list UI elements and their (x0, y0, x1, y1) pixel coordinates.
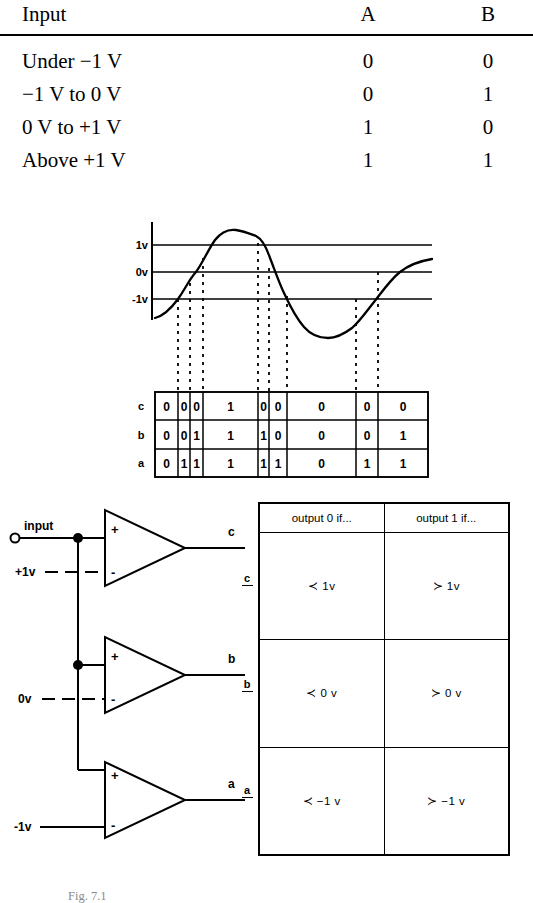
column-header-output-0: output 0 if... (260, 504, 385, 533)
bit-cell: 1 (260, 429, 267, 443)
bit-cell: 1 (227, 429, 234, 443)
bit-cell: 0 (163, 457, 170, 471)
condition-row-marker-b-rule (242, 691, 253, 692)
comparator-a: + - a -1v (14, 755, 245, 838)
cell-input: Under −1 V (0, 35, 293, 77)
table-row: 0 V to +1 V 1 0 (0, 110, 533, 143)
bit-cell: 1 (260, 457, 267, 471)
comparator-a-plus-sign: + (111, 768, 119, 783)
comparator-b: + - b 0v (18, 637, 245, 713)
cell-b: 0 (443, 35, 533, 77)
comparator-a-minus-sign: - (111, 818, 115, 833)
table-row: Above +1 V 1 1 (0, 143, 533, 176)
bit-cell: 1 (193, 457, 200, 471)
condition-table-grid: output 0 if... output 1 if... ≺ 1v ≻ 1v … (259, 503, 509, 855)
bit-cell: 1 (400, 429, 407, 443)
comparator-b-plus-sign: + (111, 649, 119, 664)
condition-a-zero: ≺ −1 v (260, 747, 385, 854)
figure-caption: Fig. 7.1 (68, 889, 388, 903)
condition-row-marker-b: b (240, 678, 254, 692)
condition-b-one: ≻ 0 v (384, 640, 509, 747)
reference-label-minus1v: -1v (14, 820, 32, 834)
cell-b: 0 (443, 110, 533, 143)
cell-a: 1 (293, 143, 443, 176)
condition-header-row: output 0 if... output 1 if... (260, 504, 509, 533)
analog-waveform-curve (155, 230, 432, 338)
bit-cell: 0 (318, 457, 325, 471)
bit-cell: 0 (163, 400, 170, 414)
bit-cell: 0 (181, 400, 188, 414)
bit-cell: 0 (318, 429, 325, 443)
column-header-output-1: output 1 if... (384, 504, 509, 533)
waveform-figure: 1v 0v -1v (0, 205, 533, 480)
drop-line-group (178, 243, 378, 392)
condition-row-marker-a-rule (242, 797, 253, 798)
input-label: input (24, 519, 53, 533)
table-header-row: Input A B (0, 0, 533, 35)
comparator-b-minus-sign: - (111, 692, 115, 707)
cell-b: 1 (443, 77, 533, 110)
bit-cell: 1 (275, 457, 282, 471)
cell-input: Above +1 V (0, 143, 293, 176)
bit-cell: 1 (181, 457, 188, 471)
truth-table-grid: Input A B Under −1 V 0 0 −1 V to 0 V 0 1… (0, 0, 533, 176)
cell-input: 0 V to +1 V (0, 110, 293, 143)
bit-table: c b a 0 0 0 1 0 0 0 0 0 0 0 1 1 1 0 (138, 392, 428, 477)
bit-cell: 0 (364, 429, 371, 443)
cell-b: 1 (443, 143, 533, 176)
column-header-b: B (443, 0, 533, 35)
table-row: Under −1 V 0 0 (0, 35, 533, 77)
reference-label-0v: 0v (18, 692, 32, 706)
output-condition-table: output 0 if... output 1 if... ≺ 1v ≻ 1v … (258, 502, 510, 856)
column-header-a: A (293, 0, 443, 35)
cell-a: 1 (293, 110, 443, 143)
condition-row-marker-a: a (240, 784, 254, 798)
condition-b-zero: ≺ 0 v (260, 640, 385, 747)
bit-cell: 0 (400, 400, 407, 414)
bit-cell: 1 (193, 429, 200, 443)
waveform-svg: 1v 0v -1v (0, 205, 533, 480)
condition-c-zero: ≺ 1v (260, 533, 385, 640)
bit-cell: 1 (400, 457, 407, 471)
cell-input: −1 V to 0 V (0, 77, 293, 110)
cell-a: 0 (293, 35, 443, 77)
condition-row-marker-c: c (240, 572, 254, 586)
comparator-circuit-svg: input + - c +1v + - b 0v (0, 480, 265, 890)
bit-cell: 0 (163, 429, 170, 443)
condition-row-marker-a-label: a (240, 784, 254, 796)
condition-row-b: ≺ 0 v ≻ 0 v (260, 640, 509, 747)
condition-row-c: ≺ 1v ≻ 1v (260, 533, 509, 640)
cell-a: 0 (293, 77, 443, 110)
axis-label-0v: 0v (136, 266, 149, 278)
column-header-input: Input (0, 0, 293, 35)
axis-label-minus1v: -1v (132, 293, 149, 305)
comparator-circuit-diagram: input + - c +1v + - b 0v (0, 480, 265, 890)
bit-cell: 0 (318, 400, 325, 414)
bit-row-label-a: a (138, 457, 145, 469)
comparator-a-output-label: a (228, 777, 235, 791)
bit-cell: 0 (275, 400, 282, 414)
reference-label-plus1v: +1v (15, 565, 36, 579)
table-row: −1 V to 0 V 0 1 (0, 77, 533, 110)
bit-cell: 1 (364, 457, 371, 471)
input-truth-table: Input A B Under −1 V 0 0 −1 V to 0 V 0 1… (0, 0, 533, 198)
comparator-c-output-label: c (228, 525, 235, 539)
input-terminal (11, 534, 20, 543)
bit-cell: 0 (275, 429, 282, 443)
comparator-c-plus-sign: + (111, 522, 119, 537)
condition-row-marker-c-label: c (240, 572, 254, 584)
bit-cell: 0 (364, 400, 371, 414)
condition-row-a: ≺ −1 v ≻ −1 v (260, 747, 509, 854)
comparator-c-minus-sign: - (111, 565, 115, 580)
bit-cell: 0 (260, 400, 267, 414)
bit-cell: 1 (227, 457, 234, 471)
axis-label-1v: 1v (136, 239, 149, 251)
comparator-b-output-label: b (228, 652, 235, 666)
bit-row-label-c: c (138, 400, 144, 412)
condition-a-one: ≻ −1 v (384, 747, 509, 854)
condition-row-marker-c-rule (242, 585, 253, 586)
condition-c-one: ≻ 1v (384, 533, 509, 640)
bit-cell: 0 (181, 429, 188, 443)
condition-row-marker-b-label: b (240, 678, 254, 690)
bit-cell: 0 (193, 400, 200, 414)
